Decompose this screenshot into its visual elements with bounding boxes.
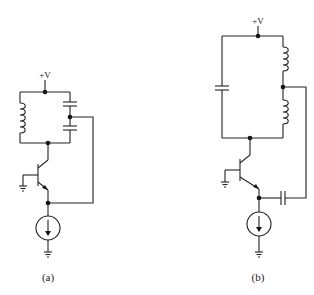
capacitor-icon (63, 102, 77, 106)
ground-icon (255, 252, 263, 257)
caption-b: (b) (252, 271, 265, 284)
feedback-wire-b (283, 87, 306, 198)
capacitor-icon (63, 126, 77, 130)
oscillator-circuits-diagram: +V (0, 0, 314, 295)
current-source-icon (247, 212, 271, 236)
inductor-icon (20, 103, 25, 133)
circuit-a: +V (19, 70, 93, 284)
caption-a: (a) (42, 271, 55, 284)
supply-label-a: +V (39, 70, 51, 80)
ground-icon (19, 186, 27, 191)
inductor-icon (283, 100, 288, 124)
ground-icon (44, 252, 52, 257)
npn-transistor-icon (225, 138, 259, 198)
coupling-capacitor-icon (281, 191, 285, 205)
current-source-icon (36, 216, 60, 240)
inductor-icon (283, 47, 288, 71)
capacitor-icon (215, 86, 229, 90)
circuit-b: +V (215, 16, 306, 284)
ground-icon (221, 182, 229, 187)
supply-label-b: +V (252, 16, 264, 26)
npn-transistor-icon (23, 143, 48, 203)
